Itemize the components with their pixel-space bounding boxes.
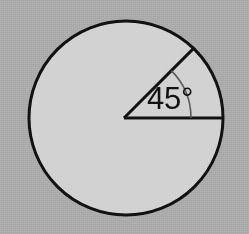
figure-canvas: 45°	[0, 0, 249, 234]
angle-measure-label: 45°	[147, 81, 193, 116]
geometry-diagram: 45°	[0, 0, 249, 234]
